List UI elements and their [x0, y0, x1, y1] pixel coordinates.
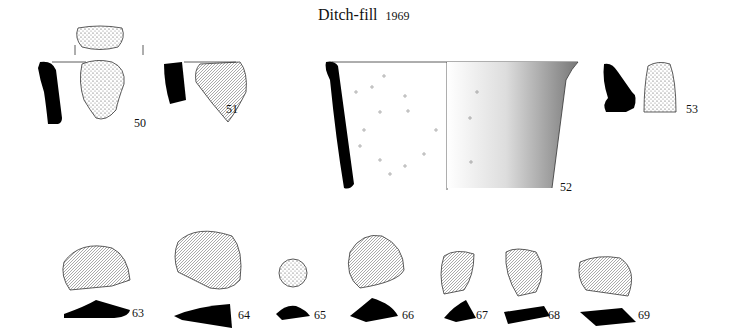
label-50: 50 [134, 116, 146, 131]
flint-66 [348, 235, 404, 322]
label-69: 69 [638, 308, 650, 323]
flint-65 [276, 259, 310, 320]
label-65: 65 [314, 308, 326, 323]
flint-68 [504, 249, 550, 324]
drawings [0, 0, 732, 336]
sherd-50 [38, 26, 143, 124]
label-67: 67 [476, 308, 488, 323]
vessel-52 [326, 62, 579, 191]
sherd-53 [604, 62, 677, 112]
label-66: 66 [402, 308, 414, 323]
flint-69 [579, 257, 636, 326]
label-63: 63 [132, 306, 144, 321]
flint-67 [441, 251, 476, 322]
figure-plate: Ditch-fill 1969 [0, 0, 732, 336]
flint-63 [63, 246, 130, 318]
flint-64 [174, 231, 241, 328]
label-53: 53 [686, 102, 698, 117]
label-52: 52 [560, 180, 572, 195]
label-68: 68 [548, 308, 560, 323]
label-64: 64 [238, 308, 250, 323]
label-51: 51 [226, 102, 238, 117]
